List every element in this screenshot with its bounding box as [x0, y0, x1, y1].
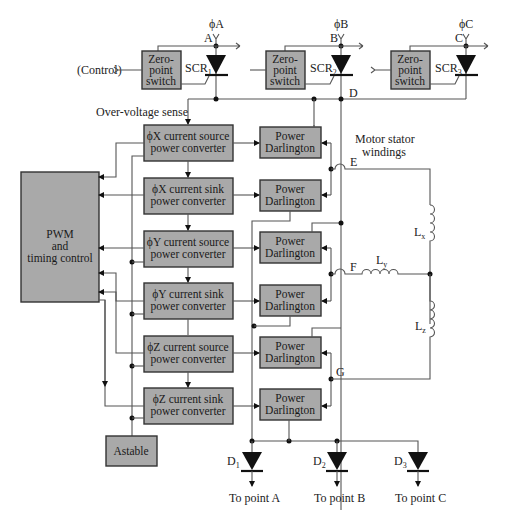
- svg-text:Power: Power: [275, 183, 305, 195]
- motor-stator-label-2: windings: [362, 145, 406, 159]
- svg-text:power converter: power converter: [150, 405, 225, 418]
- svg-text:switch: switch: [146, 75, 176, 87]
- to-point-a-label: To point A: [229, 491, 280, 505]
- svg-text:Power: Power: [275, 340, 305, 352]
- inductor-ly-label: Ly: [376, 253, 387, 269]
- svg-text:Darlington: Darlington: [265, 404, 315, 417]
- svg-text:Power: Power: [275, 288, 305, 300]
- svg-text:SCR2: SCR2: [310, 61, 337, 77]
- svg-text:Darlington: Darlington: [265, 195, 315, 208]
- diode-d1-icon: [242, 452, 262, 470]
- svg-text:timing control: timing control: [27, 252, 92, 265]
- converters-column: ϕX current source power converter ϕX cur…: [144, 125, 233, 424]
- control-label: (Control): [77, 63, 122, 77]
- motor-stator-label-1: Motor stator: [355, 132, 415, 146]
- svg-text:SCR3: SCR3: [435, 61, 462, 77]
- motor-drive-schematic: ϕA A Zero- point switch SCR1 (Control) ϕ…: [0, 0, 507, 510]
- diode-d1: D1 To point A: [227, 441, 280, 505]
- inductor-lx-label: Lx: [414, 225, 425, 241]
- svg-text:Power: Power: [275, 235, 305, 247]
- astable-label: Astable: [113, 445, 148, 457]
- svg-text:SCR1: SCR1: [185, 61, 212, 77]
- node-a-label: A: [204, 31, 213, 45]
- node-g-label: G: [336, 365, 345, 379]
- svg-text:C: C: [455, 31, 463, 45]
- svg-text:Power: Power: [275, 392, 305, 404]
- svg-text:B: B: [330, 31, 338, 45]
- svg-text:and: and: [52, 240, 69, 252]
- svg-text:D2: D2: [313, 454, 326, 470]
- svg-text:switch: switch: [270, 75, 300, 87]
- phase-a-group: ϕA A Zero- point switch SCR1 (Control): [77, 17, 240, 99]
- svg-text:power converter: power converter: [150, 195, 225, 208]
- inductor-lz-label: Lz: [415, 319, 426, 335]
- diode-d3-icon: [408, 452, 428, 470]
- svg-text:power converter: power converter: [150, 248, 225, 261]
- svg-text:Darlington: Darlington: [265, 352, 315, 365]
- svg-text:power converter: power converter: [150, 142, 225, 155]
- svg-text:ϕC: ϕC: [459, 17, 473, 31]
- darlington-column: Power Darlington Power Darlington Power …: [260, 127, 321, 420]
- svg-text:D3: D3: [394, 454, 407, 470]
- svg-text:Darlington: Darlington: [265, 142, 315, 155]
- svg-text:ϕB: ϕB: [334, 17, 348, 31]
- svg-text:PWM: PWM: [46, 228, 73, 240]
- node-e-label: E: [350, 155, 357, 169]
- diode-d2: D2 To point B: [313, 441, 365, 505]
- phase-c-group: ϕC C Zero- point switch SCR3: [371, 17, 488, 99]
- inductor-lx-icon: [430, 205, 435, 324]
- svg-text:D1: D1: [227, 454, 240, 470]
- to-point-b-label: To point B: [314, 491, 365, 505]
- phase-a-label: ϕA: [209, 17, 224, 31]
- node-f-label: F: [350, 260, 357, 274]
- svg-text:power converter: power converter: [150, 300, 225, 313]
- diode-d3: D3 To point C: [394, 452, 446, 505]
- svg-text:Darlington: Darlington: [265, 247, 315, 260]
- inductor-ly-icon: [331, 269, 430, 274]
- node-d-label: D: [349, 86, 358, 100]
- to-point-c-label: To point C: [395, 491, 446, 505]
- svg-text:Power: Power: [275, 130, 305, 142]
- svg-text:power converter: power converter: [150, 353, 225, 366]
- over-voltage-sense-label: Over-voltage sense: [96, 105, 188, 119]
- diode-d2-icon: [327, 452, 347, 470]
- svg-text:Darlington: Darlington: [265, 300, 315, 313]
- svg-text:switch: switch: [395, 75, 425, 87]
